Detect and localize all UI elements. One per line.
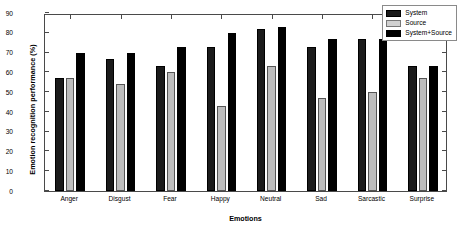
y-tick-label: 80 xyxy=(0,30,13,37)
x-tick-mark xyxy=(221,15,222,19)
bar-surprise-system-source xyxy=(429,66,438,191)
bar-fear-source xyxy=(167,72,176,191)
legend-swatch-icon xyxy=(386,20,401,27)
bar-anger-system-source xyxy=(76,53,85,191)
x-tick-mark xyxy=(272,15,273,19)
legend-swatch-icon xyxy=(386,30,401,37)
y-tick-mark xyxy=(45,52,49,53)
legend: SystemSourceSystem+Source xyxy=(382,5,457,41)
y-tick-mark xyxy=(442,71,446,72)
bar-surprise-source xyxy=(419,78,428,191)
y-tick-mark xyxy=(45,111,49,112)
bar-disgust-source xyxy=(116,84,125,191)
y-tick-mark xyxy=(45,91,49,92)
y-tick-label: 50 xyxy=(0,90,13,97)
figure-canvas: Emotion recognition performance (%) 0102… xyxy=(0,0,462,244)
bar-neutral-system-source xyxy=(278,27,287,191)
bar-disgust-system-source xyxy=(127,53,136,191)
bar-neutral-source xyxy=(267,66,276,191)
bar-happy-system xyxy=(207,47,216,191)
legend-label: System xyxy=(405,10,427,17)
x-tick-mark xyxy=(121,15,122,19)
y-tick-label: 0 xyxy=(0,189,13,196)
y-tick-mark xyxy=(45,71,49,72)
y-tick-mark xyxy=(442,52,446,53)
y-tick-mark xyxy=(45,32,49,33)
y-tick-mark xyxy=(442,111,446,112)
y-tick-mark xyxy=(45,131,49,132)
y-tick-label: 70 xyxy=(0,50,13,57)
bar-sarcastic-system xyxy=(358,39,367,191)
bar-fear-system xyxy=(156,66,165,191)
bar-sarcastic-system-source xyxy=(379,39,388,191)
bar-anger-system xyxy=(55,78,64,191)
x-tick-label: Surprise xyxy=(382,196,462,203)
legend-item: System xyxy=(386,8,452,18)
y-tick-mark xyxy=(45,12,49,13)
x-tick-mark xyxy=(322,15,323,19)
legend-label: Source xyxy=(405,20,426,27)
legend-item: Source xyxy=(386,18,452,28)
bar-surprise-system xyxy=(408,66,417,191)
y-axis-title: Emotion recognition performance (%) xyxy=(28,15,37,205)
y-tick-mark xyxy=(45,170,49,171)
bar-sad-system xyxy=(307,47,316,191)
y-tick-label: 90 xyxy=(0,11,13,18)
bar-disgust-system xyxy=(106,59,115,192)
x-tick-mark xyxy=(70,15,71,19)
y-tick-mark xyxy=(442,91,446,92)
y-tick-mark xyxy=(442,150,446,151)
y-tick-label: 60 xyxy=(0,70,13,77)
y-tick-label: 20 xyxy=(0,149,13,156)
y-tick-label: 10 xyxy=(0,169,13,176)
bar-neutral-system xyxy=(257,29,266,191)
x-tick-mark xyxy=(372,15,373,19)
y-tick-label: 40 xyxy=(0,110,13,117)
x-axis-title: Emotions xyxy=(44,214,447,223)
x-tick-mark xyxy=(171,15,172,19)
y-tick-mark xyxy=(442,131,446,132)
y-tick-mark xyxy=(45,190,49,191)
bar-anger-source xyxy=(66,78,75,191)
legend-swatch-icon xyxy=(386,10,401,17)
bar-sarcastic-source xyxy=(368,92,377,191)
y-tick-mark xyxy=(45,150,49,151)
legend-item: System+Source xyxy=(386,28,452,38)
bar-happy-source xyxy=(217,106,226,191)
y-tick-label: 30 xyxy=(0,129,13,136)
bar-sad-source xyxy=(318,98,327,191)
bar-sad-system-source xyxy=(328,39,337,191)
legend-label: System+Source xyxy=(405,30,452,37)
y-tick-mark xyxy=(442,170,446,171)
bar-happy-system-source xyxy=(228,33,237,191)
y-tick-mark xyxy=(442,190,446,191)
bar-fear-system-source xyxy=(177,47,186,191)
